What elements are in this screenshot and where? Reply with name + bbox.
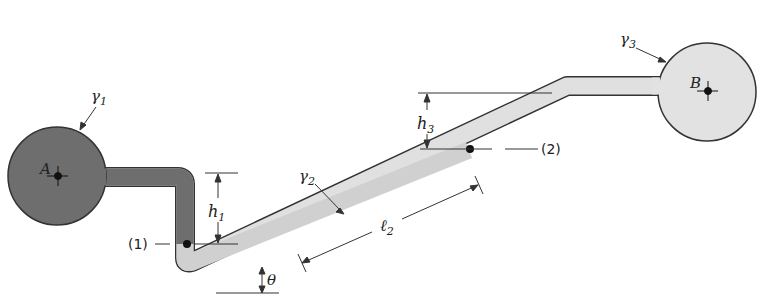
label-theta: θ: [267, 271, 276, 289]
label-gamma1: γ1: [91, 87, 107, 108]
fluid-gamma1-tube: [100, 177, 185, 244]
label-point-1: (1): [128, 236, 148, 252]
label-h3: h3: [417, 114, 434, 136]
label-l2: ℓ2: [380, 216, 394, 238]
point-1-marker: [183, 240, 191, 248]
manometer-figure: γ1 γ2 γ3 A B h1 h3 ℓ2 θ (1) (2): [0, 0, 767, 306]
label-point-2: (2): [541, 141, 561, 157]
label-point-b: B: [689, 74, 701, 92]
label-gamma3: γ3: [620, 30, 636, 51]
label-gamma2: γ2: [299, 167, 315, 188]
label-point-a: A: [38, 160, 51, 178]
label-h1: h1: [208, 202, 225, 224]
fluid-gamma2-tube: [185, 150, 469, 263]
